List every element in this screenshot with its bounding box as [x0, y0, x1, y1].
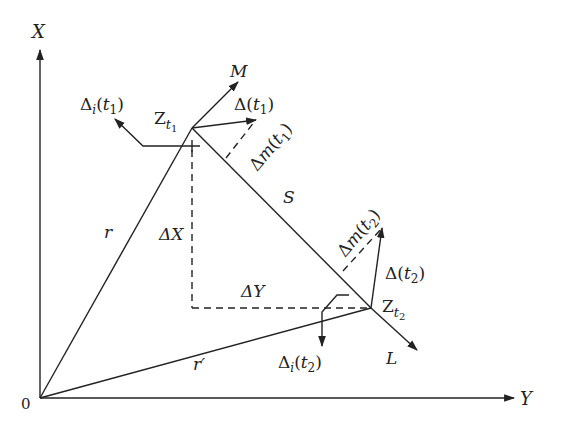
l-label: L [385, 348, 397, 368]
x-axis-label: X [30, 21, 46, 42]
delta-t1-label: Δ(t1) [234, 94, 274, 117]
delta-i-t1-label: Δi(t1) [80, 94, 124, 117]
vector-r [40, 128, 192, 398]
s-label: S [283, 187, 295, 207]
r-prime-label: r′ [193, 354, 205, 374]
delta-t1-arrow [192, 120, 256, 128]
delta-i-t2-label: Δi(t2) [278, 352, 322, 375]
displacement-vector-diagram: X Y 0 r r′ S M L Zt1 Zt2 ΔX ΔY Δ(t1) Δ(t… [0, 0, 563, 429]
delta-t2-label: Δ(t2) [385, 263, 425, 286]
z-t1-label: Zt1 [154, 108, 177, 134]
delta-m-t1-label: Δm(t1) [245, 119, 299, 177]
delta-m-t1-dashed [226, 121, 255, 158]
delta-x-label: ΔX [158, 224, 184, 244]
m-label: M [229, 61, 248, 81]
z-t2-label: Zt2 [382, 296, 405, 322]
delta-t2-arrow [371, 228, 382, 308]
origin-label: 0 [21, 395, 31, 413]
y-axis-label: Y [520, 388, 534, 409]
baseline-s [192, 128, 371, 308]
r-label: r [104, 222, 113, 242]
delta-y-label: ΔY [240, 281, 266, 301]
m-direction-arrow [192, 82, 238, 128]
